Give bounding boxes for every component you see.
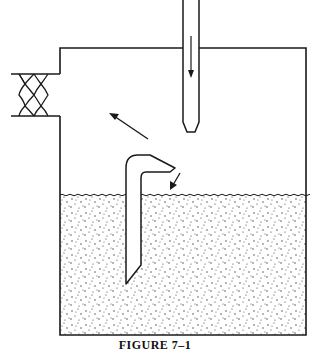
vapor-flow-arrow-icon <box>109 113 148 139</box>
inlet-pipe <box>183 0 199 132</box>
filter-mesh-icon <box>19 74 48 116</box>
tank-diagram <box>0 0 310 351</box>
liquid <box>60 195 306 335</box>
figure-caption: FIGURE 7–1 <box>0 338 310 351</box>
dip-tube-discharge-arrow-icon <box>170 173 180 190</box>
